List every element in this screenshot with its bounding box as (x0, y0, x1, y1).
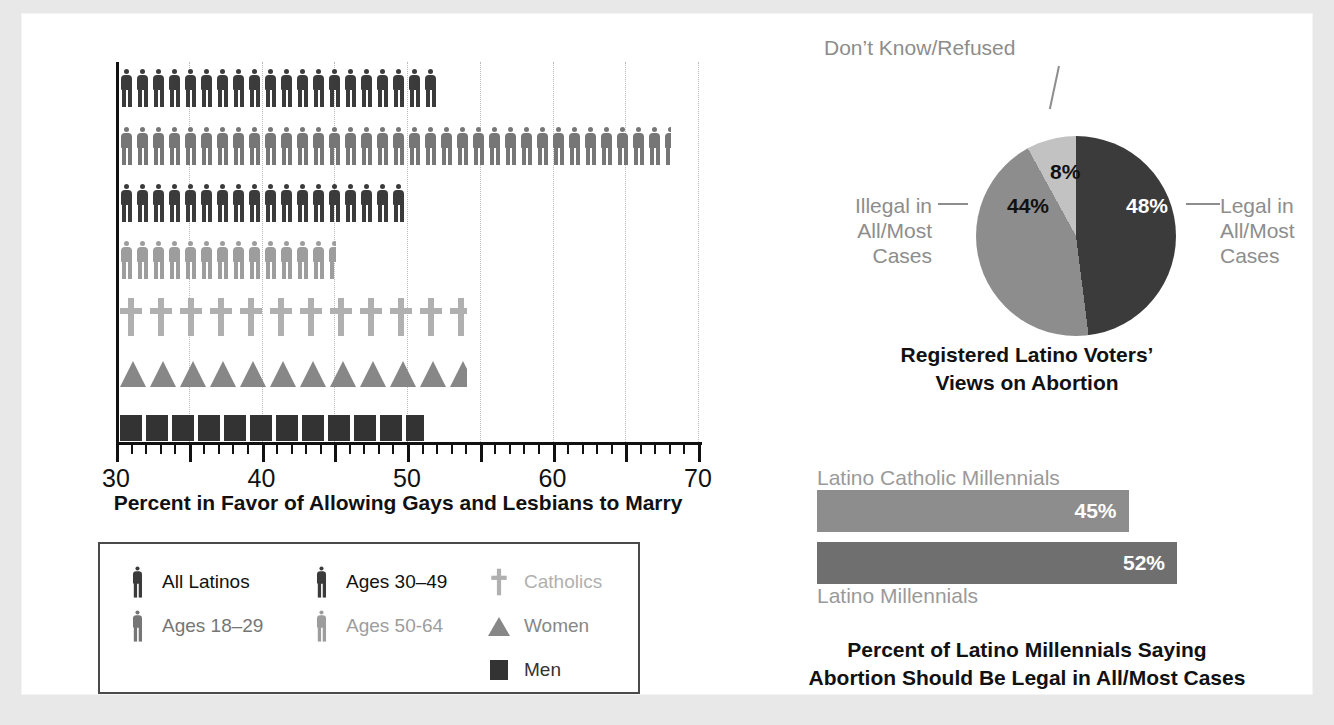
pie-callout-legal: Legal in All/Most Cases (1220, 194, 1295, 268)
person-icon (316, 610, 327, 641)
person-icon (552, 127, 565, 165)
person-icon (232, 241, 245, 279)
legend-item[interactable]: All Latinos (122, 560, 263, 604)
legend-column: All LatinosAges 18–29 (122, 560, 263, 648)
person-icon (280, 184, 293, 222)
triangle-icon (300, 361, 326, 387)
cross-icon (270, 298, 292, 336)
cross-icon (484, 563, 514, 601)
pictogram-row (120, 350, 467, 398)
person-icon (408, 127, 421, 165)
poster-page: 3040506070 Percent in Favor of Allowing … (22, 14, 1312, 694)
x-tick-minor (596, 445, 598, 454)
x-tick-label: 70 (684, 464, 712, 493)
x-tick-minor (683, 445, 685, 454)
legend-item[interactable]: Women (484, 604, 602, 648)
x-tick-minor (538, 445, 540, 454)
cross-icon (120, 298, 142, 336)
pie-callout-legal-line2: All/Most (1220, 219, 1295, 244)
person-icon (248, 69, 261, 107)
bar-title-line2: Abortion Should Be Legal in All/Most Cas… (722, 664, 1332, 692)
legend-item-label: Men (524, 659, 561, 681)
x-tick-minor (218, 445, 220, 454)
x-tick-minor (640, 445, 642, 454)
pie-callout-illegal-line3: Cases (792, 244, 932, 269)
cross-icon (491, 569, 506, 596)
x-tick-major (625, 445, 628, 462)
triangle-icon (180, 361, 206, 387)
person-icon (488, 127, 501, 165)
person-icon (168, 69, 181, 107)
legend-item[interactable]: Catholics (484, 560, 602, 604)
x-tick-minor (291, 445, 293, 454)
x-tick-minor (611, 445, 613, 454)
person-icon (328, 69, 341, 107)
x-tick-minor (363, 445, 365, 454)
person-icon (200, 241, 213, 279)
person-icon (600, 127, 613, 165)
pictogram-row (120, 236, 336, 284)
person-icon (440, 127, 453, 165)
person-icon (216, 241, 229, 279)
bar-label-latino-millennials: Latino Millennials (817, 584, 1237, 608)
cross-icon (300, 298, 322, 336)
bar-label-catholic-millennials: Latino Catholic Millennials (817, 466, 1237, 490)
x-tick-minor (494, 445, 496, 454)
person-icon (472, 127, 485, 165)
person-icon (120, 241, 133, 279)
person-icon (504, 127, 517, 165)
square-icon (380, 415, 402, 441)
pie-value-legal: 48% (1126, 194, 1168, 218)
gridline (698, 62, 700, 442)
x-axis-title: Percent in Favor of Allowing Gays and Le… (58, 491, 738, 515)
x-tick-minor (203, 445, 205, 454)
person-icon (424, 69, 437, 107)
person-icon (248, 184, 261, 222)
legend-item[interactable]: Ages 50-64 (306, 604, 447, 648)
pie-title-line2: Views on Abortion (762, 369, 1292, 397)
triangle-icon (360, 361, 386, 387)
person-icon (232, 69, 245, 107)
person-icon (392, 69, 405, 107)
square-icon (490, 660, 508, 680)
square-icon (328, 415, 350, 441)
triangle-icon (240, 361, 266, 387)
person-icon (232, 184, 245, 222)
person-icon (216, 184, 229, 222)
square-icon (406, 415, 424, 441)
x-tick-label: 60 (539, 464, 567, 493)
person-icon (296, 127, 309, 165)
legend-item-label: Ages 18–29 (162, 615, 263, 637)
square-icon (302, 415, 324, 441)
cross-icon (180, 298, 202, 336)
legend-item[interactable]: Ages 18–29 (122, 604, 263, 648)
gridline (480, 62, 482, 442)
pie-callout-illegal-line1: Illegal in (792, 194, 932, 219)
person-icon (232, 127, 245, 165)
person-icon (200, 184, 213, 222)
person-icon (344, 184, 357, 222)
triangle-icon (450, 361, 467, 387)
person-icon (296, 69, 309, 107)
cross-icon (390, 298, 412, 336)
legend-item-label: Women (524, 615, 589, 637)
pictogram-row (120, 293, 467, 341)
person-icon (132, 566, 143, 597)
legend-item[interactable]: Ages 30–49 (306, 560, 447, 604)
person-icon (200, 127, 213, 165)
person-icon (248, 241, 261, 279)
person-icon (408, 184, 409, 222)
square-icon (354, 415, 376, 441)
legend-item[interactable]: Men (484, 648, 602, 692)
person-icon (120, 69, 133, 107)
x-tick-minor (174, 445, 176, 454)
person-icon (168, 241, 181, 279)
person-icon (136, 127, 149, 165)
x-tick-minor (145, 445, 147, 454)
y-axis-line (116, 62, 119, 442)
gridline (625, 62, 627, 442)
person-icon (200, 69, 213, 107)
person-icon (376, 127, 389, 165)
person-icon (132, 610, 143, 641)
person-icon (376, 69, 389, 107)
